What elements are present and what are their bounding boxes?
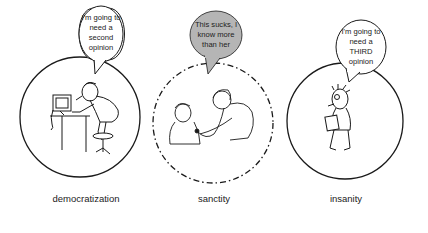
bubble-line: second: [78, 33, 124, 43]
sanctity-label: sanctity: [154, 193, 274, 204]
democratization-bubble-text: I'm going to need a second opinion: [78, 13, 124, 53]
bubble-line: need a: [338, 37, 384, 47]
insanity-circle: [287, 63, 403, 179]
bubble-line: I'm going to: [338, 27, 384, 37]
diagram: I'm going to need a second opinion This …: [0, 0, 428, 233]
insanity-bubble-text: I'm going to need a THIRD opinion: [338, 27, 384, 67]
bubble-line: opinion: [338, 57, 384, 67]
doctor-patient-illustration: [170, 90, 254, 144]
insanity-label: insanity: [286, 193, 406, 204]
bubble-line: opinion: [78, 43, 124, 53]
bubble-line: This sucks, I: [191, 20, 241, 30]
democratization-label: democratization: [26, 193, 146, 204]
sanctity-bubble-text: This sucks, I know more than her: [191, 20, 241, 50]
bubble-line: know more: [191, 30, 241, 40]
bubble-line: need a: [78, 23, 124, 33]
bubble-line: than her: [191, 40, 241, 50]
bubble-line: I'm going to: [78, 13, 124, 23]
democratization-bubble-tail: [94, 58, 106, 74]
democratization-circle: [20, 57, 140, 177]
person-at-computer-illustration: [50, 82, 118, 154]
anxious-person-illustration: [325, 84, 351, 150]
bubble-line: THIRD: [338, 47, 384, 57]
sanctity-circle: [153, 63, 273, 183]
